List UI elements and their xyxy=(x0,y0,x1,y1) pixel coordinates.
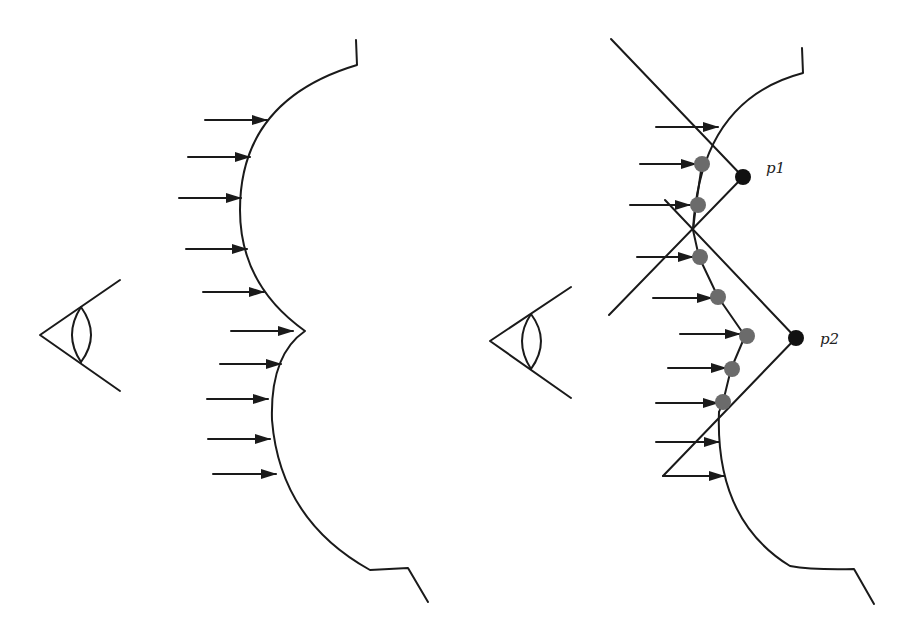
sample-points xyxy=(690,156,755,410)
label-p2: p2 xyxy=(820,330,839,348)
incident-arrows xyxy=(179,120,293,474)
eye-icon xyxy=(40,280,120,391)
point-p2 xyxy=(788,330,804,346)
reflective-surface xyxy=(240,40,428,602)
right-panel: p1 p2 xyxy=(490,39,874,604)
left-panel xyxy=(40,40,428,602)
point-p1 xyxy=(735,169,751,185)
reflective-surface-lower xyxy=(719,412,874,604)
diagram-canvas: p1 p2 xyxy=(0,0,907,631)
eye-icon xyxy=(490,287,571,398)
reflective-surface-upper xyxy=(693,48,803,230)
label-p1: p1 xyxy=(766,159,785,177)
